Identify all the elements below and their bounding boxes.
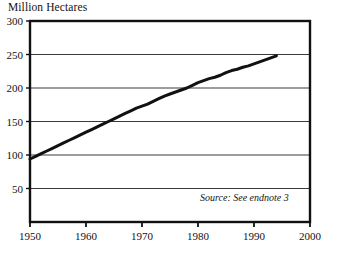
y-tick-label: 50 (12, 183, 24, 195)
y-tick-label: 300 (7, 15, 24, 27)
data-series-line (30, 56, 276, 159)
x-tick-label: 1980 (187, 230, 210, 242)
y-tick-label: 100 (7, 149, 24, 161)
series-line-irrigated-area (30, 56, 276, 159)
gridlines-group (30, 55, 310, 189)
x-tick-label: 2000 (299, 230, 322, 242)
y-tick-label: 200 (7, 82, 24, 94)
x-tick-label: 1950 (19, 230, 42, 242)
y-tick-label: 250 (7, 49, 24, 61)
chart-figure: Million Hectares 50100150200250300 19501… (0, 0, 346, 258)
x-axis-tick-labels: 195019601970198019902000 (19, 230, 322, 242)
y-axis-tick-labels: 50100150200250300 (7, 15, 24, 195)
x-tick-label: 1970 (131, 230, 154, 242)
x-tick-label: 1990 (243, 230, 266, 242)
line-chart-plot: 50100150200250300 1950196019701980199020… (0, 0, 346, 258)
x-tick-label: 1960 (75, 230, 98, 242)
y-tick-label: 150 (7, 116, 24, 128)
source-note: Source: See endnote 3 (200, 192, 289, 203)
